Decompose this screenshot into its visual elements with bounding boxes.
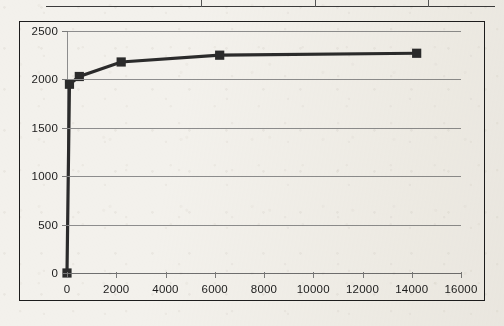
- x-axis-tick-8000: [264, 272, 265, 278]
- chart-plot-frame: 0500100015002000250002000400060008000100…: [19, 21, 485, 301]
- x-axis-label-16000: 16000: [445, 283, 478, 295]
- x-axis-label-2000: 2000: [103, 283, 129, 295]
- x-axis-label-10000: 10000: [297, 283, 330, 295]
- chart-series-layer: [67, 31, 461, 273]
- y-gridline-500: [67, 225, 461, 226]
- y-axis-label-1000: 1000: [32, 170, 58, 182]
- y-axis-label-500: 500: [38, 219, 58, 231]
- table-bottom-edge-fragment: [46, 0, 495, 8]
- table-column-divider-1: [315, 0, 316, 7]
- y-axis-label-2000: 2000: [32, 73, 58, 85]
- series-marker: [117, 57, 126, 66]
- x-axis-label-8000: 8000: [251, 283, 277, 295]
- x-axis-tick-2000: [116, 272, 117, 278]
- chart-plot-area: 0500100015002000250002000400060008000100…: [67, 31, 461, 273]
- y-axis-label-2500: 2500: [32, 25, 58, 37]
- x-axis-tick-4000: [166, 272, 167, 278]
- x-axis-label-4000: 4000: [152, 283, 178, 295]
- y-gridline-2000: [67, 79, 461, 80]
- series-marker: [215, 51, 224, 60]
- series-marker: [412, 49, 421, 58]
- y-gridline-1000: [67, 176, 461, 177]
- y-axis-tick-1000: [62, 176, 68, 177]
- y-axis-tick-500: [62, 225, 68, 226]
- series-marker: [65, 80, 74, 89]
- y-axis-label-1500: 1500: [32, 122, 58, 134]
- y-gridline-1500: [67, 128, 461, 129]
- y-axis-tick-2000: [62, 79, 68, 80]
- table-column-divider-0: [201, 0, 202, 7]
- x-axis-tick-12000: [363, 272, 364, 278]
- y-gridline-2500: [67, 31, 461, 32]
- x-axis-tick-16000: [461, 272, 462, 278]
- x-axis-tick-10000: [313, 272, 314, 278]
- series-line-0: [67, 53, 417, 273]
- y-axis-label-0: 0: [51, 267, 58, 279]
- table-column-divider-2: [428, 0, 429, 7]
- x-axis-label-6000: 6000: [202, 283, 228, 295]
- x-axis-label-0: 0: [64, 283, 71, 295]
- x-axis-tick-6000: [215, 272, 216, 278]
- x-axis-tick-0: [67, 272, 68, 278]
- x-axis-tick-14000: [412, 272, 413, 278]
- y-axis-tick-1500: [62, 128, 68, 129]
- x-axis-label-12000: 12000: [346, 283, 379, 295]
- y-axis-tick-2500: [62, 31, 68, 32]
- x-axis-label-14000: 14000: [395, 283, 428, 295]
